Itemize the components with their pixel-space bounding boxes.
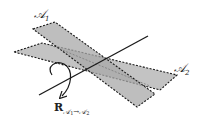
label-rotation: R𝒜1→𝒜2 — [54, 101, 89, 116]
rotation-diagram: 𝒜1 𝒜2 R𝒜1→𝒜2 — [0, 0, 197, 118]
label-a1: 𝒜1 — [34, 7, 49, 23]
label-a2: 𝒜2 — [174, 61, 190, 77]
